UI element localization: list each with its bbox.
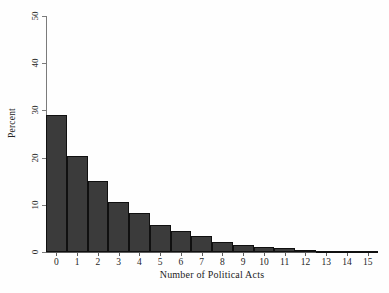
x-tick-4: 4 <box>139 252 140 256</box>
x-tick-10: 10 <box>264 252 265 256</box>
bar-10 <box>254 247 275 252</box>
bar-8 <box>212 242 233 252</box>
bar-2 <box>88 181 109 252</box>
x-tick-label: 12 <box>295 257 315 267</box>
x-tick-label: 4 <box>129 257 149 267</box>
x-tick-mark <box>139 252 140 256</box>
x-tick-mark <box>160 252 161 256</box>
x-tick-5: 5 <box>160 252 161 256</box>
y-tick-label: 40 <box>29 57 41 69</box>
y-tick-50: 50 <box>42 16 46 17</box>
bar-5 <box>150 225 171 252</box>
x-tick-label: 9 <box>233 257 253 267</box>
x-tick-label: 0 <box>46 257 66 267</box>
y-tick-mark <box>42 63 46 64</box>
x-tick-mark <box>77 252 78 256</box>
x-tick-label: 8 <box>212 257 232 267</box>
y-tick-0: 0 <box>42 252 46 253</box>
bar-7 <box>191 236 212 252</box>
bar-3 <box>108 202 129 252</box>
x-tick-label: 15 <box>358 257 378 267</box>
x-tick-mark <box>222 252 223 256</box>
y-tick-mark <box>42 252 46 253</box>
x-tick-mark <box>243 252 244 256</box>
y-tick-30: 30 <box>42 110 46 111</box>
x-tick-9: 9 <box>243 252 244 256</box>
x-tick-mark <box>264 252 265 256</box>
x-tick-mark <box>181 252 182 256</box>
x-tick-mark <box>285 252 286 256</box>
x-tick-2: 2 <box>98 252 99 256</box>
bar-0 <box>46 115 67 252</box>
bar-1 <box>67 156 88 252</box>
bar-15 <box>357 251 378 253</box>
y-axis-title: Percent <box>7 93 17 153</box>
x-tick-mark <box>98 252 99 256</box>
x-tick-label: 13 <box>316 257 336 267</box>
y-tick-label: 30 <box>29 104 41 116</box>
x-tick-label: 1 <box>67 257 87 267</box>
x-tick-label: 6 <box>171 257 191 267</box>
x-tick-0: 0 <box>56 252 57 256</box>
x-tick-12: 12 <box>305 252 306 256</box>
x-tick-6: 6 <box>181 252 182 256</box>
y-tick-label: 20 <box>29 152 41 164</box>
bar-13 <box>316 251 337 253</box>
x-tick-label: 2 <box>88 257 108 267</box>
x-tick-13: 13 <box>326 252 327 256</box>
x-tick-label: 5 <box>150 257 170 267</box>
y-tick-mark <box>42 110 46 111</box>
x-tick-11: 11 <box>285 252 286 256</box>
x-tick-label: 3 <box>109 257 129 267</box>
x-tick-8: 8 <box>222 252 223 256</box>
plot-area: 01020304050 0123456789101112131415 <box>46 16 378 252</box>
bar-12 <box>295 250 316 252</box>
x-tick-label: 14 <box>337 257 357 267</box>
y-tick-label: 0 <box>29 246 41 258</box>
x-axis-title: Number of Political Acts <box>46 269 378 280</box>
x-tick-mark <box>305 252 306 256</box>
x-tick-label: 11 <box>275 257 295 267</box>
x-tick-mark <box>119 252 120 256</box>
y-tick-mark <box>42 16 46 17</box>
x-tick-1: 1 <box>77 252 78 256</box>
x-tick-mark <box>56 252 57 256</box>
x-tick-7: 7 <box>202 252 203 256</box>
x-tick-label: 7 <box>192 257 212 267</box>
x-tick-3: 3 <box>119 252 120 256</box>
histogram-figure: Percent 01020304050 01234567891011121314… <box>0 0 389 293</box>
bar-14 <box>337 251 358 253</box>
bar-6 <box>171 231 192 252</box>
y-tick-40: 40 <box>42 63 46 64</box>
x-tick-mark <box>326 252 327 256</box>
y-tick-label: 50 <box>29 10 41 22</box>
bar-11 <box>274 248 295 252</box>
bar-4 <box>129 213 150 252</box>
y-tick-label: 10 <box>29 199 41 211</box>
bar-9 <box>233 245 254 252</box>
x-tick-mark <box>202 252 203 256</box>
x-tick-label: 10 <box>254 257 274 267</box>
